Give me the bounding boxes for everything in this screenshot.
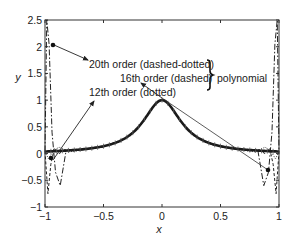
x-tick-label: −0.5 <box>93 210 114 222</box>
arrow-20th-order <box>54 45 88 60</box>
runge-interpolation-chart: −1−0.500.51 −1−0.500.511.522.5 20th orde… <box>0 0 297 242</box>
series-runge-hatch <box>45 98 279 154</box>
x-ticks: −1−0.500.51 <box>39 20 282 222</box>
annotation-20th-order: 20th order (dashed-dotted) <box>89 58 214 70</box>
y-ticks: −1−0.500.511.522.5 <box>21 14 279 213</box>
x-axis-label: x <box>155 223 162 235</box>
y-tick-label: 2 <box>36 41 42 53</box>
series-16th-order-dashed <box>45 100 279 194</box>
y-tick-label: 2.5 <box>27 14 42 26</box>
y-tick-label: −1 <box>30 201 42 213</box>
line-to-right-marker <box>162 98 268 170</box>
x-tick-label: 1 <box>276 210 282 222</box>
y-tick-label: 1.5 <box>27 67 42 79</box>
y-axis-label: y <box>14 71 22 83</box>
annotation-16th-order: 16th order (dashed) <box>120 72 212 84</box>
plot-frame <box>45 20 279 207</box>
marker-left-point <box>49 156 54 161</box>
series-runge-function <box>45 100 279 151</box>
series-20th-order-dashdot <box>45 20 279 186</box>
annotation-polynomial: polynomial <box>217 72 267 84</box>
y-tick-label: 1 <box>36 94 42 106</box>
x-tick-label: 0 <box>159 210 165 222</box>
y-tick-label: 0 <box>36 148 42 160</box>
y-tick-label: 0.5 <box>27 121 42 133</box>
y-tick-label: −0.5 <box>21 174 42 186</box>
marker-20th-order-point <box>51 43 56 48</box>
marker-right-point <box>266 168 271 173</box>
x-tick-label: 0.5 <box>213 210 228 222</box>
curves <box>45 20 279 194</box>
annotation-12th-order: 12th order (dotted) <box>89 86 176 98</box>
axes: −1−0.500.51 −1−0.500.511.522.5 <box>21 14 282 222</box>
